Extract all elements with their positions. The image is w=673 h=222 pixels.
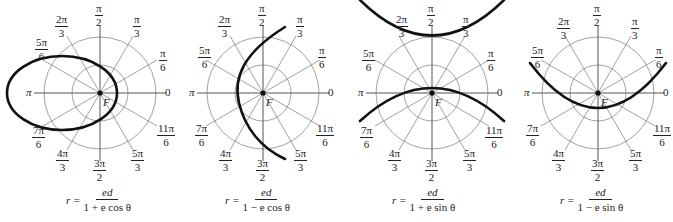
label-pi: π — [524, 87, 530, 98]
label-zero: 0 — [663, 87, 669, 98]
label-4pi-over-3: 4π3 — [552, 148, 565, 173]
label-5pi-over-6: 5π6 — [531, 45, 544, 70]
label-3pi-over-2: 3π2 — [256, 158, 269, 183]
label-pi-over-2: π2 — [258, 3, 266, 28]
label-5pi-over-6: 5π6 — [362, 48, 375, 73]
label-5pi-over-3: 5π3 — [294, 148, 307, 173]
focus-label: F — [435, 96, 442, 108]
label-7pi-over-6: 7π6 — [526, 123, 539, 148]
label-4pi-over-3: 4π3 — [56, 148, 69, 173]
label-pi: π — [358, 87, 364, 98]
label-4pi-over-3: 4π3 — [219, 148, 232, 173]
label-5pi-over-6: 5π6 — [35, 37, 48, 62]
label-pi-over-3: π3 — [631, 16, 639, 41]
label-pi-over-6: π6 — [655, 45, 663, 70]
label-5pi-over-6: 5π6 — [198, 45, 211, 70]
focus-label: F — [601, 96, 608, 108]
label-pi-over-6: π6 — [318, 45, 326, 70]
label-pi-over-6: π6 — [487, 48, 495, 73]
label-11pi-over-6: 11π6 — [653, 123, 671, 148]
label-3pi-over-2: 3π2 — [93, 158, 106, 183]
labels-panel-1: π2 2π3 π3 5π6 π6 π 0 F 7π6 11π6 4π3 5π3 … — [0, 0, 170, 222]
equation: r = ed1 + e cos θ — [66, 186, 131, 213]
equation: r = ed1 − e sin θ — [560, 186, 623, 213]
label-4pi-over-3: 4π3 — [388, 148, 401, 173]
label-5pi-over-3: 5π3 — [131, 148, 144, 173]
label-pi: π — [26, 87, 32, 98]
label-2pi-over-3: 2π3 — [55, 14, 68, 39]
label-2pi-over-3: 2π3 — [218, 14, 231, 39]
label-5pi-over-3: 5π3 — [463, 148, 476, 173]
label-7pi-over-6: 7π6 — [360, 125, 373, 150]
label-7pi-over-6: 7π6 — [195, 123, 208, 148]
label-3pi-over-2: 3π2 — [591, 158, 604, 183]
label-2pi-over-3: 2π3 — [557, 16, 570, 41]
label-2pi-over-3: 2π3 — [395, 14, 408, 39]
label-pi-over-3: π3 — [462, 14, 470, 39]
focus-label: F — [103, 96, 110, 108]
label-pi-over-2: π2 — [95, 3, 103, 28]
label-pi-over-3: π3 — [296, 14, 304, 39]
label-pi: π — [189, 87, 195, 98]
label-pi-over-2: π2 — [427, 3, 435, 28]
equation: r = ed1 + e sin θ — [392, 186, 455, 213]
label-3pi-over-2: 3π2 — [425, 158, 438, 183]
labels-panel-4: π2 2π3 π3 5π6 π6 π 0 F 7π6 11π6 4π3 5π3 … — [498, 0, 673, 222]
label-pi-over-3: π3 — [133, 14, 141, 39]
equation: r = ed1 − e cos θ — [225, 186, 290, 213]
labels-panel-3: π2 2π3 π3 5π6 π6 π 0 F 7π6 11π6 4π3 5π3 … — [332, 0, 502, 222]
label-pi-over-2: π2 — [593, 3, 601, 28]
label-7pi-over-6: 7π6 — [32, 125, 45, 150]
focus-label: F — [266, 96, 273, 108]
label-5pi-over-3: 5π3 — [629, 148, 642, 173]
labels-panel-2: π2 2π3 π3 5π6 π6 π 0 F 7π6 11π6 4π3 5π3 … — [163, 0, 333, 222]
